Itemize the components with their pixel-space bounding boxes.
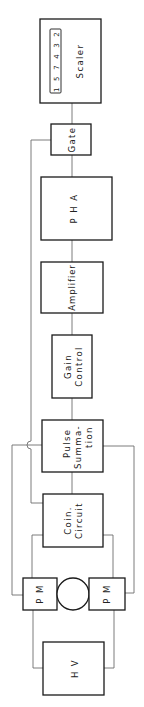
wire-hv-pmright bbox=[104, 610, 114, 668]
scaler-block: 1 5 7 4 3 2 Scaler bbox=[40, 19, 101, 103]
gate-label: Gate bbox=[67, 127, 77, 153]
gain-control-line2: Control bbox=[74, 346, 84, 387]
gain-control-block: Gain Control bbox=[52, 335, 92, 398]
wire-pmleft-pulse bbox=[12, 445, 42, 595]
scaler-label: Scaler bbox=[75, 44, 85, 79]
pha-label: P H A bbox=[69, 194, 79, 224]
wire-hv-pmleft bbox=[33, 610, 43, 668]
coin-circuit-line2: Circuit bbox=[74, 502, 84, 539]
pulse-summation-line3: tion bbox=[84, 426, 94, 448]
pm-right-label: P M bbox=[102, 584, 112, 603]
detector-circle bbox=[57, 578, 89, 610]
pm-left-block: P M bbox=[23, 578, 57, 610]
pha-block: P H A bbox=[41, 177, 112, 240]
wire-pmleft-coin bbox=[32, 535, 43, 578]
wire-pmright-coin bbox=[103, 535, 113, 578]
counter-value: 1 5 7 4 3 2 bbox=[53, 30, 61, 92]
wire-pmright-pulse bbox=[103, 446, 134, 593]
amplifier-block: Amplifier bbox=[41, 262, 103, 313]
block-diagram: 1 5 7 4 3 2 Scaler Gate P H A Amplifier … bbox=[0, 0, 144, 707]
gate-block: Gate bbox=[51, 124, 91, 155]
hv-label: H V bbox=[70, 659, 80, 678]
pm-left-label: P M bbox=[35, 584, 45, 603]
amplifier-label: Amplifier bbox=[67, 264, 77, 310]
pulse-summation-block: Pulse Summa- tion bbox=[42, 420, 103, 472]
gain-control-line1: Gain bbox=[63, 354, 73, 379]
pm-right-block: P M bbox=[89, 578, 125, 610]
hv-block: H V bbox=[43, 642, 104, 695]
coin-circuit-line1: Coin. bbox=[63, 506, 73, 535]
pulse-summation-line1: Pulse bbox=[62, 429, 72, 458]
pulse-summation-line2: Summa- bbox=[73, 425, 83, 469]
coin-circuit-block: Coin. Circuit bbox=[43, 494, 103, 547]
